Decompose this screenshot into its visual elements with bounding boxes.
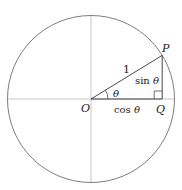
label-origin: O — [81, 102, 90, 115]
cos-fn: cos — [114, 104, 131, 115]
angle-arc — [105, 90, 108, 99]
label-point-p: P — [161, 42, 170, 55]
label-point-q: Q — [156, 103, 165, 116]
label-angle: θ — [113, 88, 119, 99]
cos-theta: θ — [134, 104, 140, 115]
right-angle-marker — [154, 91, 162, 99]
label-opposite: sin θ — [135, 75, 159, 86]
sin-theta: θ — [153, 75, 159, 86]
label-hypotenuse: 1 — [123, 63, 130, 76]
sin-fn: sin — [135, 75, 150, 86]
label-adjacent: cos θ — [114, 104, 140, 115]
unit-circle-diagram: O P Q 1 θ sin θ cos θ — [0, 0, 182, 190]
